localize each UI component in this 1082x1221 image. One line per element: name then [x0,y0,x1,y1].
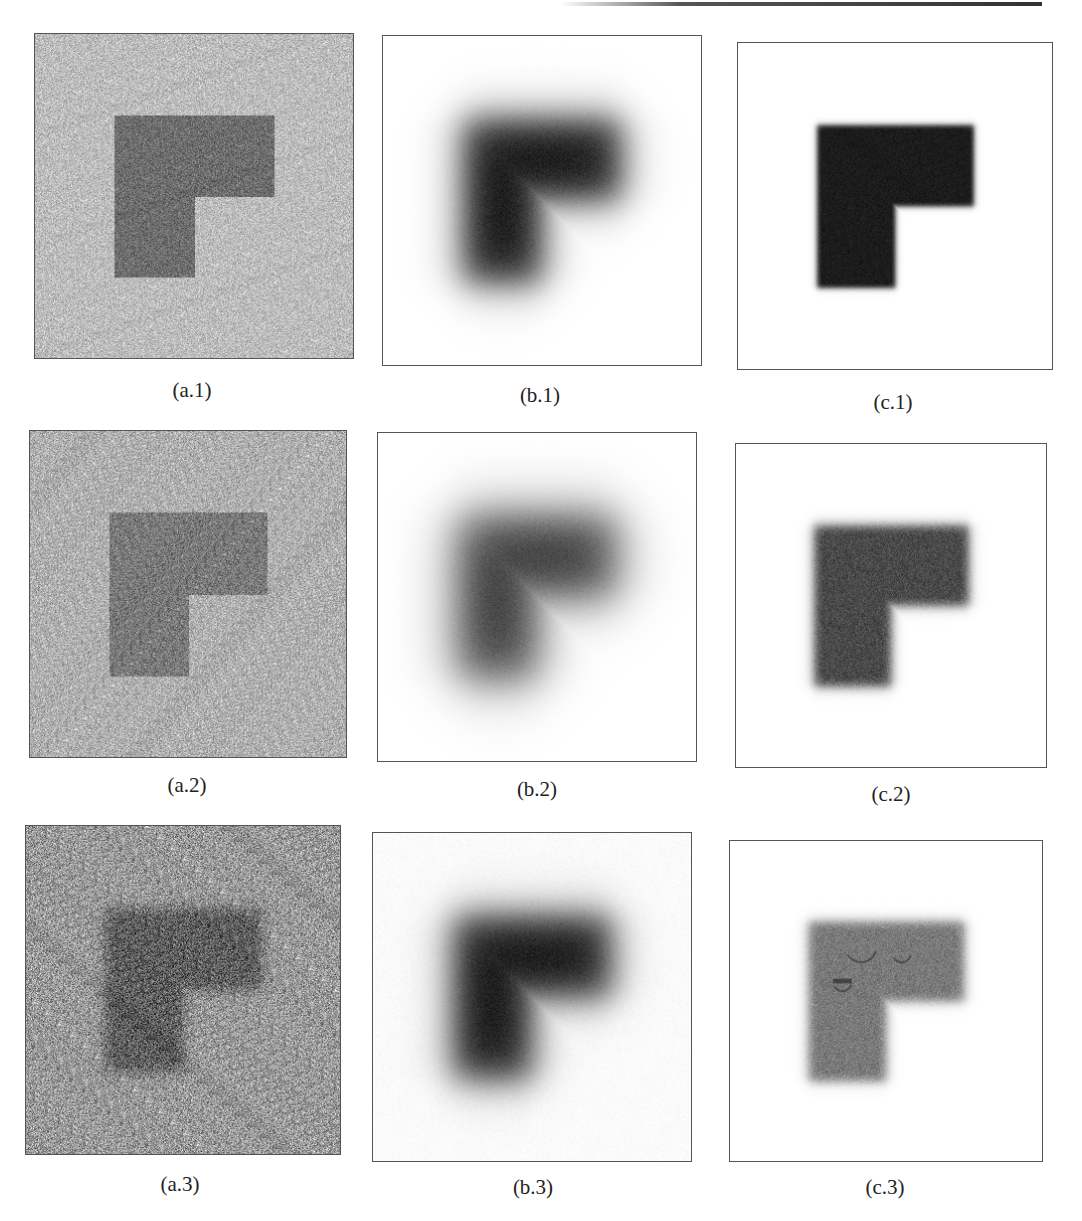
panel-a2-label: (a.2) [127,773,247,798]
panel-a3-label: (a.3) [120,1172,240,1197]
panel-b2-label: (b.2) [477,777,597,802]
panel-c1-image [737,42,1053,370]
panel-b3-label: (b.3) [473,1175,593,1200]
panel-a1-label: (a.1) [132,378,252,403]
panel-a1-image [34,33,354,359]
panel-c2-label: (c.2) [831,782,951,807]
panel-a3-image [25,825,341,1155]
panel-c2-image [735,443,1047,768]
panel-b2-image [377,432,697,762]
panel-c1-label: (c.1) [833,390,953,415]
panel-c3-image [729,840,1043,1162]
panel-b1-label: (b.1) [480,383,600,408]
panel-b1-image [382,35,702,366]
panel-a2-image [29,430,347,758]
panel-b3-image [372,832,692,1162]
panel-c3-label: (c.3) [825,1175,945,1200]
page-header-rule [560,2,1042,6]
